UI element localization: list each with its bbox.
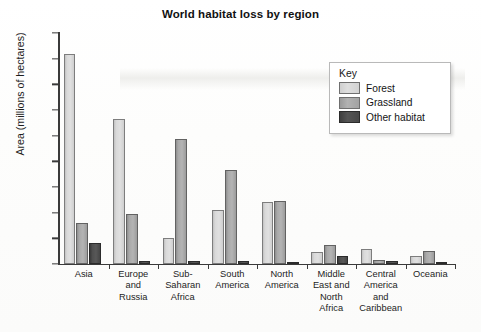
y-tick-mark: [52, 212, 58, 213]
bar-other-habitat: [386, 261, 398, 264]
y-tick-mark: [52, 32, 58, 33]
legend: Key ForestGrasslandOther habitat: [329, 62, 451, 134]
bar-forest: [163, 238, 175, 264]
bar-other-habitat: [436, 262, 448, 264]
y-axis-title: Area (millions of hectares): [14, 0, 26, 204]
legend-title: Key: [339, 68, 443, 79]
bar-grassland: [175, 139, 187, 264]
bar-other-habitat: [139, 261, 151, 264]
bar-other-habitat: [287, 262, 299, 264]
y-tick-mark: [52, 58, 58, 59]
bar-forest: [113, 119, 125, 264]
bar-forest: [311, 252, 323, 264]
y-tick-mark: [52, 186, 58, 187]
bar-grassland: [423, 251, 435, 264]
bar-forest: [212, 210, 224, 264]
x-category-label: Oceania: [402, 269, 460, 280]
legend-swatch-icon: [339, 97, 360, 109]
bar-forest: [262, 202, 274, 264]
chart-figure: World habitat loss by region Area (milli…: [0, 0, 481, 332]
bar-other-habitat: [337, 256, 349, 264]
legend-label: Other habitat: [366, 112, 425, 123]
y-tick-mark: [52, 238, 58, 239]
legend-swatch-icon: [339, 111, 360, 123]
bar-grassland: [126, 214, 138, 264]
legend-rows: ForestGrasslandOther habitat: [339, 82, 443, 123]
bar-group: [257, 33, 307, 264]
bar-forest: [361, 249, 373, 264]
y-tick-mark: [52, 161, 58, 162]
bar-group: [158, 33, 208, 264]
bar-other-habitat: [188, 261, 200, 264]
legend-item: Grassland: [339, 97, 443, 109]
bar-other-habitat: [238, 261, 250, 264]
y-tick-mark: [52, 263, 58, 264]
chart-title: World habitat loss by region: [0, 8, 481, 20]
y-tick-mark: [52, 84, 58, 85]
legend-item: Other habitat: [339, 111, 443, 123]
bar-forest: [410, 256, 422, 264]
legend-swatch-icon: [339, 82, 360, 94]
y-tick-mark: [52, 135, 58, 136]
bar-grassland: [274, 201, 286, 264]
bar-grassland: [373, 260, 385, 264]
bar-grassland: [225, 170, 237, 264]
y-tick-mark: [52, 109, 58, 110]
legend-item: Forest: [339, 82, 443, 94]
bar-other-habitat: [89, 243, 101, 264]
bar-grassland: [324, 245, 336, 264]
bar-grassland: [76, 223, 88, 264]
bar-group: [59, 33, 109, 264]
bar-group: [208, 33, 258, 264]
bar-forest: [64, 54, 76, 264]
bar-group: [109, 33, 159, 264]
legend-label: Grassland: [366, 97, 412, 108]
legend-label: Forest: [366, 83, 395, 94]
